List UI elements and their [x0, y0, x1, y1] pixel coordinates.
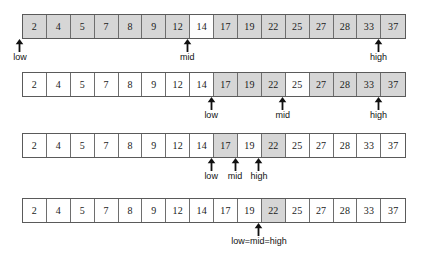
array-cell: 7	[95, 199, 119, 222]
array-cell: 12	[166, 73, 190, 96]
array-cell: 25	[286, 73, 310, 96]
pointer-markers: lowmidhigh	[22, 158, 406, 188]
array-cell: 12	[166, 199, 190, 222]
pointer-markers: lowmidhigh	[22, 39, 406, 69]
array-cell: 5	[71, 15, 95, 38]
array-cell: 19	[238, 199, 262, 222]
pointer-label: low	[13, 53, 27, 63]
up-arrow-icon	[183, 39, 192, 52]
array-cell: 9	[142, 134, 166, 157]
array-strip: 24578912141719222527283337	[22, 14, 406, 39]
array-cell: 27	[310, 199, 334, 222]
array-cell: 27	[310, 15, 334, 38]
array-cell: 37	[381, 15, 405, 38]
array-cell: 25	[286, 134, 310, 157]
pointer-low: low	[0, 39, 50, 63]
array-cell: 5	[71, 199, 95, 222]
up-arrow-icon	[254, 223, 263, 236]
array-cell: 14	[190, 199, 214, 222]
array-cell: 17	[214, 134, 238, 157]
array-cell: 25	[286, 15, 310, 38]
array-strip: 24578912141719222527283337	[22, 198, 406, 223]
array-cell: 17	[214, 73, 238, 96]
up-arrow-icon	[278, 97, 287, 110]
array-cell: 7	[95, 15, 119, 38]
binary-search-diagram: 24578912141719222527283337lowmidhigh2457…	[0, 0, 425, 259]
pointer-markers: low=mid=high	[22, 223, 406, 253]
array-cell: 9	[142, 199, 166, 222]
array-cell: 28	[334, 134, 358, 157]
array-cell: 33	[357, 134, 381, 157]
pointer-mid: mid	[223, 97, 313, 121]
array-cell: 12	[166, 134, 190, 157]
array-cell: 14	[190, 134, 214, 157]
array-cell: 22	[262, 199, 286, 222]
array-row-3: 24578912141719222527283337lowmidhigh	[22, 133, 406, 158]
pointer-high: high	[199, 158, 289, 182]
pointer-label: mid	[180, 53, 195, 63]
up-arrow-icon	[374, 39, 383, 52]
pointer-label: low=mid=high	[231, 237, 287, 247]
array-cell: 37	[381, 134, 405, 157]
array-cell: 9	[142, 73, 166, 96]
array-cell: 8	[119, 73, 143, 96]
array-cell: 19	[238, 73, 262, 96]
up-arrow-icon	[207, 97, 216, 110]
array-strip: 24578912141719222527283337	[22, 72, 406, 97]
pointer-markers: lowmidhigh	[22, 97, 406, 127]
array-cell: 2	[23, 73, 47, 96]
array-cell: 4	[47, 73, 71, 96]
array-cell: 4	[47, 15, 71, 38]
array-row-2: 24578912141719222527283337lowmidhigh	[22, 72, 406, 97]
up-arrow-icon	[15, 39, 24, 52]
array-cell: 9	[142, 15, 166, 38]
array-cell: 19	[238, 15, 262, 38]
pointer-low-mid-high: low=mid=high	[199, 223, 289, 247]
pointer-label: mid	[276, 111, 291, 121]
array-cell: 22	[262, 73, 286, 96]
array-cell: 7	[95, 73, 119, 96]
array-cell: 22	[262, 134, 286, 157]
array-cell: 2	[23, 15, 47, 38]
pointer-label: high	[250, 172, 267, 182]
array-cell: 33	[357, 199, 381, 222]
array-strip: 24578912141719222527283337	[22, 133, 406, 158]
array-cell: 22	[262, 15, 286, 38]
array-cell: 33	[357, 15, 381, 38]
pointer-high: high	[318, 39, 408, 63]
array-cell: 12	[166, 15, 190, 38]
array-cell: 37	[381, 199, 405, 222]
array-cell: 28	[334, 73, 358, 96]
array-cell: 28	[334, 15, 358, 38]
array-cell: 14	[190, 73, 214, 96]
array-cell: 2	[23, 199, 47, 222]
array-row-4: 24578912141719222527283337low=mid=high	[22, 198, 406, 223]
up-arrow-icon	[374, 97, 383, 110]
array-cell: 4	[47, 199, 71, 222]
pointer-label: low	[204, 111, 218, 121]
array-cell: 2	[23, 134, 47, 157]
array-cell: 25	[286, 199, 310, 222]
array-cell: 27	[310, 73, 334, 96]
array-cell: 8	[119, 15, 143, 38]
array-cell: 33	[357, 73, 381, 96]
pointer-high: high	[318, 97, 408, 121]
array-cell: 8	[119, 134, 143, 157]
array-cell: 28	[334, 199, 358, 222]
array-cell: 17	[214, 199, 238, 222]
array-cell: 27	[310, 134, 334, 157]
array-cell: 8	[119, 199, 143, 222]
array-cell: 4	[47, 134, 71, 157]
array-cell: 5	[71, 134, 95, 157]
pointer-label: high	[370, 111, 387, 121]
array-cell: 37	[381, 73, 405, 96]
up-arrow-icon	[254, 158, 263, 171]
array-cell: 14	[190, 15, 214, 38]
array-cell: 5	[71, 73, 95, 96]
array-cell: 7	[95, 134, 119, 157]
pointer-mid: mid	[127, 39, 217, 63]
array-row-1: 24578912141719222527283337lowmidhigh	[22, 14, 406, 39]
array-cell: 17	[214, 15, 238, 38]
pointer-label: high	[370, 53, 387, 63]
array-cell: 19	[238, 134, 262, 157]
